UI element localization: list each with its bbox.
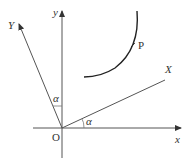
point-p-label: P bbox=[138, 39, 144, 51]
angle-x-label: α bbox=[86, 115, 92, 127]
rotated-y-axis-label: Y bbox=[8, 19, 16, 31]
origin-label: O bbox=[52, 131, 60, 143]
angle-arc-x bbox=[82, 119, 84, 128]
curve bbox=[84, 11, 137, 77]
rotated-x-axis-label: X bbox=[164, 63, 173, 75]
rotated-x-axis bbox=[62, 80, 165, 128]
angle-y-label: α bbox=[53, 92, 59, 104]
x-axis-label: x bbox=[174, 133, 180, 145]
rotated-axes-diagram: y x Y X O P α α bbox=[0, 0, 190, 163]
y-axis-label: y bbox=[52, 6, 58, 18]
rotated-y-axis bbox=[19, 24, 62, 128]
